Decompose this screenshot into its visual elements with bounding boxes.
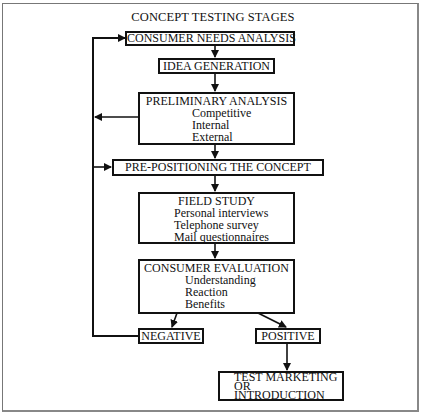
stage-test-marketing: TEST MARKETING OR INTRODUCTION (218, 371, 344, 401)
list-item: Benefits (185, 298, 293, 310)
stage-field-study: FIELD STUDY Personal interviews Telephon… (138, 192, 295, 244)
outcome-negative: NEGATIVE (138, 328, 204, 344)
outcome-positive: POSITIVE (255, 328, 321, 344)
stage-consumer-needs-analysis: CONSUMER NEEDS ANALYSIS (125, 31, 295, 46)
stage-preliminary-analysis: PRELIMINARY ANALYSIS Competitive Interna… (138, 92, 295, 145)
list-item: External (192, 131, 293, 143)
stage-pre-positioning: PRE-POSITIONING THE CONCEPT (112, 159, 324, 176)
stage-idea-generation: IDEA GENERATION (158, 58, 275, 74)
stage-consumer-evaluation: CONSUMER EVALUATION Understanding Reacti… (138, 259, 295, 314)
list-item: Mail questionnaires (174, 231, 293, 243)
